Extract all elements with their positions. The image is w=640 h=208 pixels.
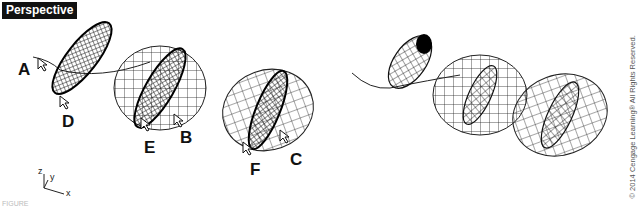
figure-canvas: Perspective A D E B F C z y x © 2014 Cen… xyxy=(0,0,640,208)
figure-caption: FIGURE xyxy=(2,200,28,207)
viewport-label[interactable]: Perspective xyxy=(2,2,77,19)
callout-d: D xyxy=(62,112,74,132)
wireframe-drawing xyxy=(0,0,640,208)
callout-c: C xyxy=(290,150,302,170)
ellipsoid-b xyxy=(114,42,206,134)
axis-x-label: x xyxy=(66,188,71,198)
callout-f: F xyxy=(250,160,260,180)
callout-a: A xyxy=(18,60,30,80)
callout-e: E xyxy=(144,138,155,158)
callout-b: B xyxy=(180,128,192,148)
copyright-notice: © 2014 Cengage Learning® All Rights Rese… xyxy=(626,60,638,200)
ellipsoid-a xyxy=(43,14,121,102)
axis-z-label: z xyxy=(38,166,43,176)
ellipsoid-c xyxy=(211,57,325,164)
axis-y-label: y xyxy=(50,172,55,182)
ellipsoid-d xyxy=(380,28,441,96)
